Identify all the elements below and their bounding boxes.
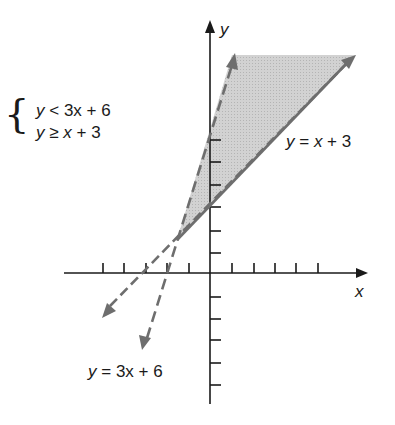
graph: y x { y < 3x + 6 y ≥ x + 3 y = x + 3 y =… <box>0 0 395 425</box>
arrow-down-left-icon <box>102 303 116 318</box>
x-axis-label: x <box>354 282 364 301</box>
label-y-equals-x-plus-3: y = x + 3 <box>285 132 351 151</box>
x-axis-arrow-icon <box>356 268 368 278</box>
y-axis-label: y <box>219 20 230 39</box>
x-axis <box>64 263 368 278</box>
inequality-2: y ≥ x + 3 <box>35 123 101 142</box>
y-axis-arrow-icon <box>205 20 215 33</box>
y-axis <box>205 20 221 404</box>
label-y-equals-3x-plus-6: y = 3x + 6 <box>87 362 163 381</box>
left-brace: { <box>4 90 29 136</box>
inequality-1: y < 3x + 6 <box>35 101 111 120</box>
arrow-down-icon <box>139 335 151 350</box>
